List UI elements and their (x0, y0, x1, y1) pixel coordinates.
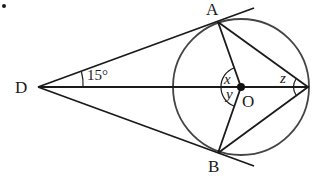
angle-arc-d (82, 72, 84, 87)
label-o: O (242, 92, 254, 111)
bullet-marker (2, 4, 6, 8)
angle-label-z: z (279, 70, 286, 86)
angle-label-x: x (223, 71, 231, 87)
tangent-line-db (38, 87, 254, 166)
label-a: A (206, 0, 219, 19)
center-dot (237, 83, 245, 91)
angle-label-15: 15° (87, 67, 108, 83)
label-b: B (208, 157, 219, 176)
tangent-line-da (38, 8, 254, 87)
geometry-diagram: D A B O 15° x y z (0, 0, 319, 190)
chord-ac (218, 22, 308, 87)
label-d: D (15, 78, 27, 97)
angle-label-y: y (224, 86, 233, 102)
